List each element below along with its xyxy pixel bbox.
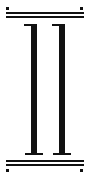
- bottom-rule-lower: [6, 164, 84, 166]
- stroke-1-bottom-serif: [25, 153, 43, 155]
- numeral-stroke-2: [52, 24, 72, 155]
- top-rule-upper: [6, 12, 84, 14]
- stroke-1-stem: [31, 24, 37, 153]
- top-right-dot-icon: [80, 7, 83, 10]
- top-rule-lower: [6, 16, 84, 18]
- top-left-dot-icon: [6, 7, 9, 10]
- bottom-left-dot-icon: [6, 169, 9, 172]
- bottom-rule-upper: [6, 160, 84, 162]
- numeral-two-ornament: II: [0, 0, 95, 177]
- stroke-2-bottom-serif: [53, 153, 71, 155]
- bottom-right-dot-icon: [80, 169, 83, 172]
- stroke-2-stem: [59, 24, 65, 153]
- numeral-stroke-1: [24, 24, 44, 155]
